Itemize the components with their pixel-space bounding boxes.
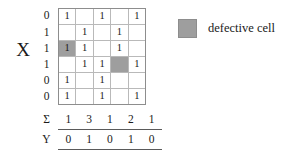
defective-cell-swatch-icon [178,19,197,38]
y-value-row: 0 1 0 1 0 [58,132,162,148]
y-value: 0 [141,132,162,148]
y-value: 0 [100,132,121,148]
summary-rule-bottom [58,149,162,150]
y-value: 1 [79,132,100,148]
sigma-value: 3 [79,112,100,128]
grid-cell[interactable] [94,25,111,40]
grid-cell[interactable]: 1 [129,57,145,72]
grid-cell[interactable]: 1 [94,57,111,72]
grid-cell[interactable]: 1 [129,89,145,104]
y-label: Y [38,132,55,148]
row-label: 1 [38,40,55,56]
summary-values: 1 3 1 2 1 0 1 0 1 0 [58,112,162,148]
x-axis-label: X [12,40,34,59]
grid-cell[interactable] [94,41,111,56]
grid-row: 11 [59,25,145,41]
grid-cell[interactable]: 1 [59,9,76,24]
grid-row: 111 [59,57,145,73]
sigma-value: 1 [141,112,162,128]
y-value: 0 [58,132,79,148]
sigma-value-row: 1 3 1 2 1 [58,112,162,128]
binary-matrix-grid: 1111111111111111 [58,8,146,105]
grid-cell[interactable]: 1 [94,89,111,104]
grid-cell[interactable]: 1 [94,73,111,88]
row-label: 1 [38,57,55,73]
sigma-label: Σ [38,112,55,128]
grid-cell[interactable] [59,57,76,72]
row-label: 0 [38,8,55,24]
grid-cell[interactable]: 1 [129,9,145,24]
row-label: 0 [38,89,55,105]
grid-cell[interactable] [111,9,128,24]
grid-cell[interactable]: 1 [76,25,93,40]
row-label-column: 0 1 1 1 0 0 [38,8,55,105]
grid-cell[interactable]: 1 [94,9,111,24]
grid-cell[interactable]: 1 [111,25,128,40]
summary-label-column: Σ Y [38,112,55,148]
sigma-value: 1 [58,112,79,128]
grid-cell[interactable] [76,89,93,104]
grid-cell[interactable]: 1 [59,89,76,104]
column-summary-block: Σ Y 1 3 1 2 1 0 1 0 1 0 [38,112,162,148]
row-label: 0 [38,73,55,89]
grid-cell[interactable] [59,25,76,40]
legend: defective cell [178,19,275,38]
y-value: 1 [120,132,141,148]
grid-row: 111 [59,89,145,104]
grid-cell[interactable] [129,73,145,88]
grid-cell-defective[interactable] [111,57,128,72]
sigma-value: 2 [120,112,141,128]
grid-cell[interactable] [111,73,128,88]
grid-cell[interactable] [76,9,93,24]
row-label: 1 [38,24,55,40]
grid-row: 111 [59,9,145,25]
defective-cell-grid-figure: X 0 1 1 1 0 0 1111111111111111 Σ Y 1 3 1… [0,0,284,157]
grid-row: 11 [59,73,145,89]
legend-label: defective cell [208,22,275,35]
grid-cell[interactable]: 1 [111,41,128,56]
grid-row: 111 [59,41,145,57]
grid-cell[interactable]: 1 [76,57,93,72]
sigma-value: 1 [100,112,121,128]
grid-cell[interactable] [76,73,93,88]
grid-cell[interactable]: 1 [76,41,93,56]
grid-cell[interactable] [111,89,128,104]
grid-cell-defective[interactable]: 1 [59,41,76,56]
grid-cell[interactable] [129,25,145,40]
grid-cell[interactable] [129,41,145,56]
grid-cell[interactable]: 1 [59,73,76,88]
